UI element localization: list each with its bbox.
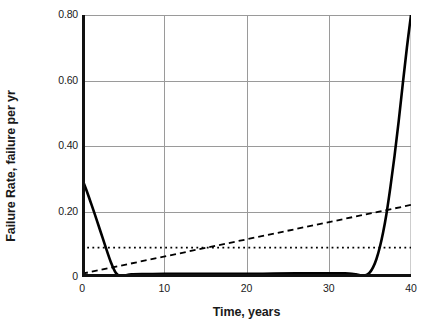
y-axis-title: Failure Rate, failure per yr — [0, 0, 22, 332]
series-increasing-wearout-trend — [82, 205, 411, 274]
x-axis-tick-label: 20 — [227, 282, 267, 294]
x-axis-tick-label: 10 — [144, 282, 184, 294]
figure-bathtub-curve-chart: Failure Rate, failure per yr 00.200.400.… — [0, 0, 433, 332]
y-axis-tick-label: 0 — [34, 271, 78, 282]
plot-svg — [82, 15, 411, 277]
data-series-group — [82, 15, 411, 276]
x-axis-tick-label: 0 — [62, 282, 102, 294]
y-axis-tick-label: 0.80 — [34, 9, 78, 20]
y-axis-tick-label: 0.40 — [34, 140, 78, 151]
plot-area — [82, 15, 411, 277]
x-axis-tick-label: 30 — [309, 282, 349, 294]
series-bathtub-curve — [82, 15, 411, 276]
x-axis-tick-label: 40 — [391, 282, 431, 294]
y-axis-tick-label: 0.60 — [34, 75, 78, 86]
x-axis-title: Time, years — [82, 305, 411, 319]
grid-lines — [82, 15, 411, 277]
y-axis-tick-label: 0.20 — [34, 206, 78, 217]
